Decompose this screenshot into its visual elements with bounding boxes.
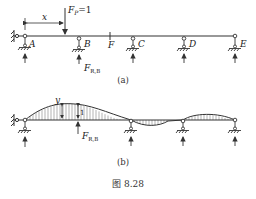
distance-label: x — [42, 12, 47, 22]
diagram-a: FP=1 x A B F C D E FR,B (a) — [11, 5, 247, 85]
support-d — [176, 119, 189, 146]
unit-label: 1 — [80, 109, 84, 117]
fixed-wall-icon — [11, 30, 23, 42]
label-c: C — [138, 39, 145, 49]
label-e: E — [239, 39, 247, 49]
ordinate-label: y — [54, 95, 61, 105]
label-a: A — [28, 39, 36, 49]
fixed-wall-icon — [11, 114, 23, 126]
label-d: D — [188, 39, 196, 49]
reaction-label-b: FR,B — [81, 131, 98, 142]
support-e — [228, 118, 241, 146]
figure-caption: 图 8.28 — [112, 179, 144, 189]
support-c — [124, 119, 137, 146]
subfigure-a-label: (a) — [117, 75, 129, 85]
diagram-b: y 1 FR,B — [11, 95, 241, 167]
support-a — [18, 118, 31, 147]
reaction-label-a: FR,B — [83, 63, 100, 74]
subfigure-b-label: (b) — [117, 157, 129, 167]
label-b: B — [83, 39, 91, 49]
influence-line-figure: FP=1 x A B F C D E FR,B (a) — [0, 0, 256, 199]
label-hinge-f: F — [107, 40, 115, 50]
load-label: FP=1 — [67, 5, 92, 16]
